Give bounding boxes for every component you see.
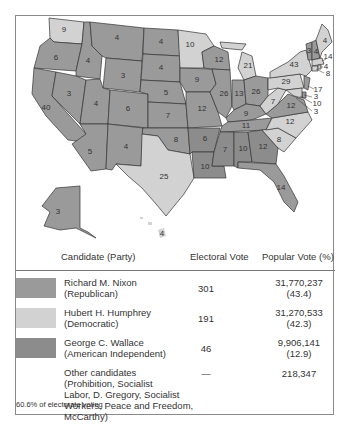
header-electoral-vote: Electoral Vote [190, 251, 249, 262]
state-hawaii: 4 [140, 217, 166, 238]
electoral-vote: 46 [191, 343, 221, 354]
svg-text:3: 3 [121, 71, 126, 80]
state-south-dakota: 4 [141, 54, 180, 82]
svg-text:14: 14 [277, 183, 286, 192]
svg-text:3: 3 [67, 89, 72, 98]
candidate-name: George C. Wallace [64, 337, 166, 348]
popular-vote: 218,347 [266, 368, 332, 379]
svg-text:12: 12 [198, 104, 207, 113]
header-popular-vote: Popular Vote (%) [262, 251, 334, 262]
table-row-humphrey: Hubert H. Humphrey(Democratic) 191 31,27… [16, 307, 335, 337]
state-new-york: 43 [270, 50, 312, 78]
svg-text:11: 11 [242, 121, 251, 130]
svg-text:26: 26 [220, 89, 229, 98]
color-swatch-republican [16, 278, 56, 298]
svg-text:9: 9 [62, 25, 67, 34]
election-map-figure: 9 6 40 4 3 4 3 4 5 6 4 4 4 5 7 8 25 10 9… [15, 15, 334, 415]
candidate-party-line: Labor, D. Gregory, Socialist [64, 389, 193, 400]
state-north-dakota: 4 [143, 28, 180, 56]
popular-vote-pct: (42.3) [266, 318, 332, 329]
svg-text:4: 4 [159, 63, 164, 72]
svg-text:3: 3 [307, 46, 312, 55]
svg-text:7: 7 [166, 111, 171, 120]
svg-text:25: 25 [160, 172, 169, 181]
candidate-name: Richard M. Nixon [64, 277, 137, 288]
svg-text:9: 9 [244, 109, 249, 118]
svg-text:7: 7 [271, 97, 276, 106]
table-row-others: Other candidates (Prohibition, Socialist… [16, 367, 335, 425]
us-electoral-map: 9 6 40 4 3 4 3 4 5 6 4 4 4 5 7 8 25 10 9… [16, 16, 335, 241]
electoral-vote: 191 [191, 313, 221, 324]
svg-text:12: 12 [286, 117, 295, 126]
svg-text:4: 4 [94, 99, 99, 108]
svg-text:9: 9 [195, 75, 200, 84]
table-row-nixon: Richard M. Nixon(Republican) 301 31,770,… [16, 277, 335, 307]
svg-text:26: 26 [252, 87, 261, 96]
svg-text:13: 13 [235, 89, 244, 98]
candidate-name: Other candidates [64, 367, 193, 378]
state-washington: 9 [49, 18, 84, 44]
svg-text:4: 4 [159, 37, 164, 46]
svg-text:10: 10 [201, 162, 210, 171]
state-alaska: 3 [42, 186, 96, 238]
state-iowa: 9 [180, 68, 216, 92]
svg-text:5: 5 [88, 147, 93, 156]
candidate-party: (American Independent) [64, 348, 166, 359]
popular-vote: 31,770,237 [266, 277, 332, 288]
dc-electoral-label: 3 [314, 107, 319, 116]
turnout-note: 60.6% of electorate voting [16, 400, 103, 409]
svg-text:8: 8 [277, 135, 282, 144]
svg-text:12: 12 [215, 55, 224, 64]
svg-text:4: 4 [86, 56, 91, 65]
svg-text:6: 6 [126, 104, 131, 113]
table-header: Candidate (Party) Electoral Vote Popular… [16, 242, 335, 271]
svg-text:5: 5 [164, 88, 169, 97]
popular-vote-pct: (12.9) [266, 348, 332, 359]
svg-text:8: 8 [174, 135, 179, 144]
header-candidate: Candidate (Party) [61, 251, 135, 262]
svg-text:4: 4 [324, 62, 329, 71]
popular-vote: 9,906,141 [266, 337, 332, 348]
results-table: Candidate (Party) Electoral Vote Popular… [16, 242, 335, 425]
candidate-party: (Democratic) [64, 318, 151, 329]
color-swatch-american-independent [16, 338, 56, 358]
svg-text:4: 4 [124, 142, 129, 151]
color-swatch-democratic [16, 308, 56, 328]
svg-text:10: 10 [186, 40, 195, 49]
svg-text:12: 12 [259, 142, 268, 151]
svg-text:29: 29 [282, 77, 291, 86]
electoral-vote: — [191, 368, 221, 379]
svg-text:7: 7 [223, 145, 228, 154]
candidate-name: Hubert H. Humphrey [64, 307, 151, 318]
state-kansas: 7 [148, 102, 188, 128]
popular-vote: 31,270,533 [266, 307, 332, 318]
candidate-party-line: (Prohibition, Socialist [64, 378, 193, 389]
svg-text:6: 6 [54, 53, 59, 62]
state-new-mexico: 4 [106, 124, 143, 170]
state-florida: 14 [238, 162, 298, 212]
state-wyoming: 3 [103, 58, 142, 92]
popular-vote-pct: (43.4) [266, 288, 332, 299]
electoral-vote: 301 [191, 283, 221, 294]
svg-text:10: 10 [239, 144, 248, 153]
state-colorado: 6 [108, 90, 148, 128]
svg-text:4: 4 [323, 36, 328, 45]
svg-text:12: 12 [287, 101, 296, 110]
svg-text:43: 43 [290, 60, 299, 69]
state-wisconsin: 12 [202, 46, 230, 70]
svg-text:4: 4 [160, 229, 165, 238]
svg-text:21: 21 [244, 61, 253, 70]
candidate-party: (Republican) [64, 288, 137, 299]
svg-text:40: 40 [42, 103, 51, 112]
table-row-wallace: George C. Wallace(American Independent) … [16, 337, 335, 367]
svg-text:6: 6 [203, 134, 208, 143]
candidate-party-line: McCarthy) [64, 411, 193, 422]
svg-text:4: 4 [115, 33, 120, 42]
svg-text:3: 3 [56, 207, 61, 216]
